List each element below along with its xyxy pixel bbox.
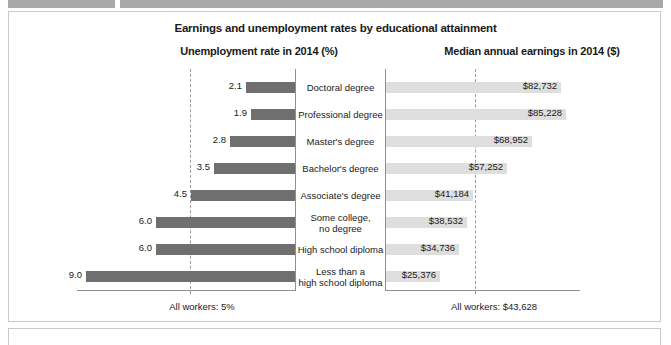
category-label: Some college,no degree bbox=[297, 209, 384, 236]
earnings-cell: $82,732 bbox=[386, 74, 662, 101]
plot-area: 2.1Doctoral degree$82,7321.9Professional… bbox=[9, 69, 662, 323]
earnings-value-label: $25,376 bbox=[392, 269, 436, 280]
category-label: Doctoral degree bbox=[297, 74, 384, 101]
right-baseline bbox=[385, 290, 580, 291]
unemployment-cell: 1.9 bbox=[9, 101, 295, 128]
chart-row: 6.0High school diploma$34,736 bbox=[9, 236, 662, 263]
unemployment-bar bbox=[156, 244, 295, 255]
earnings-value-label: $34,736 bbox=[411, 242, 455, 253]
left-panel-heading: Unemployment rate in 2014 (%) bbox=[114, 45, 404, 57]
earnings-value-label: $57,252 bbox=[459, 161, 503, 172]
earnings-cell: $85,228 bbox=[386, 101, 662, 128]
earnings-value-label: $38,532 bbox=[419, 215, 463, 226]
category-label-line: High school diploma bbox=[298, 244, 384, 255]
unemployment-value-label: 2.8 bbox=[213, 134, 226, 145]
next-figure-panel bbox=[8, 328, 661, 345]
category-label-line: Professional degree bbox=[298, 109, 383, 120]
unemployment-cell: 3.5 bbox=[9, 155, 295, 182]
unemployment-cell: 2.1 bbox=[9, 74, 295, 101]
chart-row: 4.5Associate's degree$41,184 bbox=[9, 182, 662, 209]
earnings-cell: $68,952 bbox=[386, 128, 662, 155]
category-label-line: Master's degree bbox=[307, 136, 375, 147]
unemployment-value-label: 6.0 bbox=[139, 242, 152, 253]
unemployment-cell: 6.0 bbox=[9, 236, 295, 263]
figure-panel: Earnings and unemployment rates by educa… bbox=[8, 11, 661, 322]
unemployment-value-label: 6.0 bbox=[139, 215, 152, 226]
top-strip-right bbox=[120, 0, 663, 8]
chart-row: 6.0Some college,no degree$38,532 bbox=[9, 209, 662, 236]
right-panel-heading: Median annual earnings in 2014 ($) bbox=[387, 45, 671, 57]
unemployment-value-label: 3.5 bbox=[197, 161, 210, 172]
earnings-cell: $34,736 bbox=[386, 236, 662, 263]
category-label-line: high school diploma bbox=[299, 277, 383, 288]
unemployment-bar bbox=[214, 163, 295, 174]
category-label-line: Some college, bbox=[310, 212, 370, 223]
earnings-value-label: $41,184 bbox=[425, 188, 469, 199]
unemployment-bar bbox=[251, 109, 295, 120]
category-label-line: Bachelor's degree bbox=[302, 163, 378, 174]
category-label: Master's degree bbox=[297, 128, 384, 155]
category-label: High school diploma bbox=[297, 236, 384, 263]
unemployment-value-label: 1.9 bbox=[234, 107, 247, 118]
chart-row: 9.0Less than ahigh school diploma$25,376 bbox=[9, 263, 662, 290]
category-label-line: Less than a bbox=[316, 266, 365, 277]
unemployment-value-label: 2.1 bbox=[229, 80, 242, 91]
unemployment-cell: 4.5 bbox=[9, 182, 295, 209]
category-label-line: no degree bbox=[319, 223, 362, 234]
category-label: Bachelor's degree bbox=[297, 155, 384, 182]
unemployment-value-label: 9.0 bbox=[69, 269, 82, 280]
right-footnote: All workers: $43,628 bbox=[399, 301, 589, 312]
unemployment-bar bbox=[156, 217, 295, 228]
unemployment-bar bbox=[86, 271, 295, 282]
earnings-value-label: $85,228 bbox=[518, 107, 562, 118]
top-partial-strips bbox=[0, 0, 671, 8]
category-label-line: Doctoral degree bbox=[307, 82, 375, 93]
top-strip-left bbox=[8, 0, 115, 8]
category-label: Professional degree bbox=[297, 101, 384, 128]
chart-row: 2.8Master's degree$68,952 bbox=[9, 128, 662, 155]
unemployment-value-label: 4.5 bbox=[174, 188, 187, 199]
chart-title: Earnings and unemployment rates by educa… bbox=[9, 22, 662, 34]
earnings-cell: $38,532 bbox=[386, 209, 662, 236]
earnings-cell: $57,252 bbox=[386, 155, 662, 182]
left-footnote: All workers: 5% bbox=[112, 301, 292, 312]
unemployment-cell: 9.0 bbox=[9, 263, 295, 290]
category-label: Associate's degree bbox=[297, 182, 384, 209]
chart-row: 2.1Doctoral degree$82,732 bbox=[9, 74, 662, 101]
unemployment-cell: 6.0 bbox=[9, 209, 295, 236]
unemployment-cell: 2.8 bbox=[9, 128, 295, 155]
unemployment-bar bbox=[246, 82, 295, 93]
chart-row: 1.9Professional degree$85,228 bbox=[9, 101, 662, 128]
earnings-cell: $25,376 bbox=[386, 263, 662, 290]
earnings-value-label: $82,732 bbox=[513, 80, 557, 91]
unemployment-bar bbox=[230, 136, 295, 147]
category-label-line: Associate's degree bbox=[301, 190, 381, 201]
chart-row: 3.5Bachelor's degree$57,252 bbox=[9, 155, 662, 182]
left-baseline bbox=[77, 290, 296, 291]
earnings-cell: $41,184 bbox=[386, 182, 662, 209]
category-label: Less than ahigh school diploma bbox=[297, 263, 384, 290]
unemployment-bar bbox=[191, 190, 295, 201]
earnings-value-label: $68,952 bbox=[484, 134, 528, 145]
